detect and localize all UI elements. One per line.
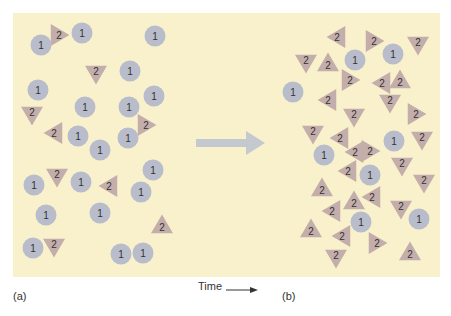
panel-a-label: (a) — [13, 290, 26, 302]
molecule-2-triangle-icon: 2 — [43, 239, 65, 258]
svg-text:2: 2 — [367, 146, 373, 157]
molecule-1-circle-icon: 1 — [72, 23, 93, 44]
svg-text:2: 2 — [319, 185, 325, 196]
svg-text:2: 2 — [415, 37, 421, 48]
svg-text:1: 1 — [321, 150, 327, 161]
svg-text:2: 2 — [303, 55, 309, 66]
molecule-2-triangle-icon: 2 — [343, 109, 365, 128]
svg-text:2: 2 — [374, 238, 380, 249]
molecule-2-triangle-icon: 2 — [399, 242, 421, 261]
molecule-1-circle-icon: 1 — [360, 165, 381, 186]
molecule-2-triangle-icon: 2 — [342, 69, 361, 91]
svg-text:1: 1 — [358, 217, 364, 228]
svg-text:1: 1 — [82, 102, 88, 113]
svg-text:2: 2 — [347, 75, 353, 86]
svg-text:2: 2 — [29, 107, 35, 118]
svg-text:2: 2 — [325, 60, 331, 71]
panel-b-molecules: 22222222222222222222222222222211111111 — [283, 26, 436, 268]
svg-text:2: 2 — [369, 192, 375, 203]
svg-text:1: 1 — [391, 136, 397, 147]
molecule-1-circle-icon: 1 — [143, 160, 164, 181]
svg-text:1: 1 — [97, 145, 103, 156]
molecule-2-triangle-icon: 2 — [51, 24, 70, 46]
svg-text:2: 2 — [51, 239, 57, 250]
molecule-1-circle-icon: 1 — [23, 238, 44, 259]
svg-text:1: 1 — [367, 170, 373, 181]
svg-text:2: 2 — [351, 198, 357, 209]
molecule-2-triangle-icon: 2 — [332, 225, 351, 247]
molecule-2-triangle-icon: 2 — [151, 215, 173, 234]
svg-text:1: 1 — [152, 31, 158, 42]
molecule-1-circle-icon: 1 — [384, 131, 405, 152]
molecule-2-triangle-icon: 2 — [338, 160, 357, 182]
svg-text:1: 1 — [43, 210, 49, 221]
molecule-2-triangle-icon: 2 — [99, 175, 118, 197]
svg-text:1: 1 — [416, 214, 422, 225]
svg-text:2: 2 — [407, 249, 413, 260]
molecule-1-circle-icon: 1 — [144, 86, 165, 107]
svg-text:2: 2 — [333, 250, 339, 261]
svg-text:1: 1 — [390, 49, 396, 60]
molecule-2-triangle-icon: 2 — [322, 200, 341, 222]
molecule-1-circle-icon: 1 — [145, 26, 166, 47]
molecule-1-circle-icon: 1 — [351, 212, 372, 233]
molecule-2-triangle-icon: 2 — [21, 107, 43, 126]
molecule-2-triangle-icon: 2 — [390, 201, 412, 220]
svg-text:2: 2 — [379, 78, 385, 89]
svg-text:2: 2 — [345, 166, 351, 177]
svg-text:2: 2 — [106, 181, 112, 192]
panel-a-molecules: 22222222211111111111111111111 — [21, 23, 173, 265]
svg-text:2: 2 — [397, 77, 403, 88]
svg-text:2: 2 — [387, 95, 393, 106]
time-progress-arrow-icon — [196, 131, 265, 155]
molecule-2-triangle-icon: 2 — [46, 169, 68, 188]
molecule-2-triangle-icon: 2 — [413, 175, 435, 194]
molecule-2-triangle-icon: 2 — [408, 103, 427, 125]
molecule-2-triangle-icon: 2 — [311, 178, 333, 197]
molecule-2-triangle-icon: 2 — [391, 158, 413, 177]
molecule-2-triangle-icon: 2 — [369, 232, 388, 254]
molecule-2-triangle-icon: 2 — [379, 95, 401, 114]
svg-text:1: 1 — [97, 208, 103, 219]
svg-text:2: 2 — [56, 30, 62, 41]
molecule-2-triangle-icon: 2 — [330, 127, 349, 149]
molecule-canvas: 22222222211111111111111111111 2222222222… — [0, 0, 451, 316]
molecule-1-circle-icon: 1 — [120, 61, 141, 82]
svg-text:1: 1 — [31, 180, 37, 191]
molecule-1-circle-icon: 1 — [119, 97, 140, 118]
svg-text:2: 2 — [334, 32, 340, 43]
molecule-1-circle-icon: 1 — [118, 128, 139, 149]
svg-text:1: 1 — [75, 131, 81, 142]
molecule-2-triangle-icon: 2 — [300, 219, 322, 238]
molecule-2-triangle-icon: 2 — [85, 66, 107, 85]
molecule-1-circle-icon: 1 — [133, 243, 154, 264]
molecule-1-circle-icon: 1 — [111, 244, 132, 265]
time-axis-arrow-icon — [226, 287, 258, 293]
svg-text:1: 1 — [151, 91, 157, 102]
svg-text:2: 2 — [337, 133, 343, 144]
molecule-1-circle-icon: 1 — [90, 140, 111, 161]
molecule-1-circle-icon: 1 — [68, 126, 89, 147]
molecule-2-triangle-icon: 2 — [318, 89, 337, 111]
svg-text:1: 1 — [126, 102, 132, 113]
molecule-2-triangle-icon: 2 — [407, 37, 429, 56]
svg-text:1: 1 — [38, 40, 44, 51]
svg-text:1: 1 — [35, 85, 41, 96]
svg-text:1: 1 — [290, 87, 296, 98]
molecule-2-triangle-icon: 2 — [362, 140, 381, 162]
molecule-2-triangle-icon: 2 — [295, 55, 317, 74]
svg-text:2: 2 — [398, 201, 404, 212]
molecule-1-circle-icon: 1 — [31, 35, 52, 56]
molecule-1-circle-icon: 1 — [28, 80, 49, 101]
molecule-1-circle-icon: 1 — [75, 97, 96, 118]
svg-text:2: 2 — [310, 126, 316, 137]
molecule-2-triangle-icon: 2 — [366, 30, 385, 52]
svg-text:2: 2 — [351, 109, 357, 120]
molecule-1-circle-icon: 1 — [36, 205, 57, 226]
svg-text:1: 1 — [78, 177, 84, 188]
svg-text:2: 2 — [93, 66, 99, 77]
svg-text:1: 1 — [150, 165, 156, 176]
molecule-2-triangle-icon: 2 — [138, 114, 157, 136]
svg-text:2: 2 — [51, 128, 57, 139]
molecule-1-circle-icon: 1 — [314, 145, 335, 166]
